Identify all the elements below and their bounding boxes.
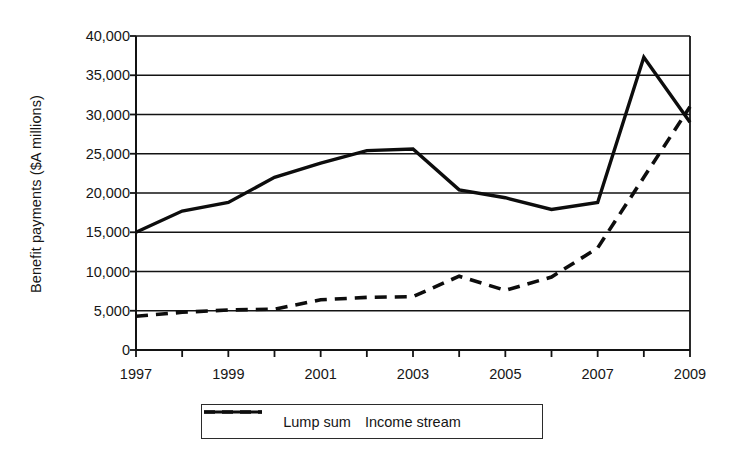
legend-label-lump-sum: Lump sum — [283, 414, 351, 430]
x-tick-label: 1999 — [212, 366, 244, 382]
x-tick-label: 2007 — [582, 366, 614, 382]
legend-entry-income-stream[interactable]: Income stream — [365, 414, 461, 430]
series-line-lump-sum — [136, 57, 690, 232]
series-line-income-stream — [136, 107, 690, 317]
chart-legend: Lump sum Income stream — [201, 404, 543, 439]
x-tick-label: 2005 — [489, 366, 521, 382]
x-tick-label: 2001 — [305, 366, 337, 382]
plot-area — [0, 0, 743, 461]
legend-entry-lump-sum[interactable]: Lump sum — [283, 414, 351, 430]
legend-swatch-dashed-icon — [202, 405, 264, 419]
legend-label-income-stream: Income stream — [365, 414, 461, 430]
x-tick-label: 2009 — [674, 366, 706, 382]
x-tick-label: 1997 — [120, 366, 152, 382]
chart-figure: Benefit payments ($A millions) 05,00010,… — [0, 0, 743, 461]
x-tick-label: 2003 — [397, 366, 429, 382]
